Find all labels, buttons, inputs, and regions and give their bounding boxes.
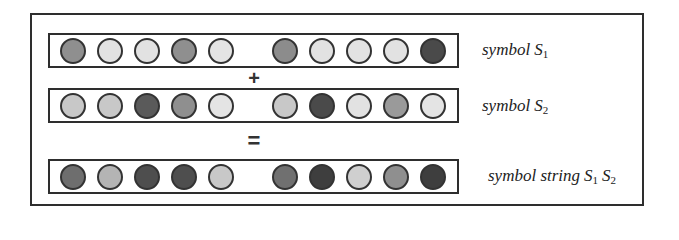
circle <box>346 38 372 64</box>
circle <box>97 164 123 190</box>
circle <box>272 164 298 190</box>
circle <box>420 164 446 190</box>
s1-left-group <box>60 38 234 64</box>
label-variable: S <box>534 40 543 59</box>
label-subscript-2: 2 <box>611 174 617 186</box>
plus-operator: + <box>239 68 269 88</box>
label-variable-1: S <box>584 166 593 185</box>
circle <box>208 93 234 119</box>
circle <box>420 93 446 119</box>
circle <box>134 93 160 119</box>
circle <box>60 38 86 64</box>
circle <box>383 164 409 190</box>
s2-right-group <box>272 93 446 119</box>
circle <box>346 93 372 119</box>
circle <box>60 93 86 119</box>
circle <box>208 38 234 64</box>
circle <box>272 93 298 119</box>
symbol-string-s1s2-row <box>48 159 459 194</box>
symbol-s2-label: symbolS2 <box>482 96 548 116</box>
equals-operator: = <box>239 130 269 152</box>
symbol-string-s1s2-label: symbol stringS1S2 <box>488 166 616 186</box>
circle <box>346 164 372 190</box>
label-variable: S <box>534 96 543 115</box>
label-subscript-1: 1 <box>593 174 599 186</box>
label-variable-2: S <box>602 166 611 185</box>
circle <box>208 164 234 190</box>
symbol-s2-row <box>48 88 459 123</box>
circle <box>171 38 197 64</box>
circle <box>309 93 335 119</box>
circle <box>272 38 298 64</box>
circle <box>97 38 123 64</box>
symbol-s1-row <box>48 33 459 68</box>
circle <box>60 164 86 190</box>
circle <box>383 38 409 64</box>
circle <box>97 93 123 119</box>
circle <box>134 164 160 190</box>
label-word: symbol <box>482 40 530 59</box>
s1s2-right-group <box>272 164 446 190</box>
circle <box>420 38 446 64</box>
circle <box>134 38 160 64</box>
s2-left-group <box>60 93 234 119</box>
label-subscript: 1 <box>543 48 549 60</box>
label-word: symbol <box>482 96 530 115</box>
circle <box>309 164 335 190</box>
s1s2-left-group <box>60 164 234 190</box>
circle <box>383 93 409 119</box>
circle <box>171 93 197 119</box>
circle <box>309 38 335 64</box>
circle <box>171 164 197 190</box>
label-subscript: 2 <box>543 104 549 116</box>
s1-right-group <box>272 38 446 64</box>
label-word: symbol string <box>488 166 580 185</box>
symbol-s1-label: symbolS1 <box>482 40 548 60</box>
